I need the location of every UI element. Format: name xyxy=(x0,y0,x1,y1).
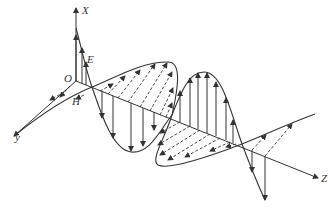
e-field-label: E xyxy=(87,54,94,65)
axes xyxy=(14,8,318,178)
e-field-wave xyxy=(76,28,265,200)
h-field-label: H xyxy=(72,96,80,107)
origin-label: O xyxy=(64,73,72,84)
em-wave-diagram: X O E H y Z xyxy=(0,0,330,211)
y-axis-label: y xyxy=(15,132,20,143)
z-axis-label: Z xyxy=(321,173,327,184)
y-axis xyxy=(14,81,76,136)
x-axis-label: X xyxy=(82,5,89,16)
diagram-canvas xyxy=(0,0,330,211)
z-axis xyxy=(76,81,318,178)
